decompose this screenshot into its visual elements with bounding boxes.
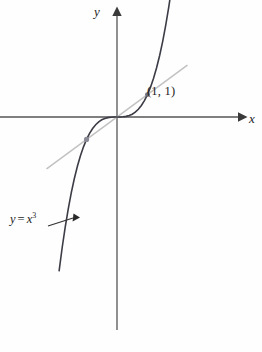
curve-equation-label: y=x3: [10, 212, 36, 227]
plot-canvas: [0, 0, 262, 352]
curve-label-exponent: 3: [32, 211, 36, 220]
leader-arrowhead: [73, 214, 80, 222]
x-axis-label: x: [249, 111, 255, 127]
leader-line: [48, 218, 73, 226]
curve-label-lhs: y: [10, 212, 16, 226]
x-axis-arrowhead: [238, 112, 248, 121]
y-axis-label: y: [94, 4, 100, 20]
curve-label-leader-arrow: [48, 214, 80, 226]
cubic-function-figure: y x (1, 1) y=x3: [0, 0, 262, 352]
point-label-1-1: (1, 1): [147, 84, 175, 99]
y-axis: [112, 7, 121, 331]
y-axis-arrowhead: [112, 7, 121, 17]
point-marker-neg1-neg1: [84, 137, 89, 142]
curve-label-equals: =: [16, 212, 27, 226]
cubic-curve-y-equals-x-cubed: [59, 0, 178, 271]
